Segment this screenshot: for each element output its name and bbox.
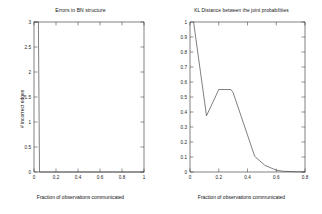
chart-panel-left: Errors in BN structure: [0, 0, 161, 214]
ytick-label-left-2: 1: [28, 120, 31, 125]
ytick-label-right-10: 1: [184, 20, 187, 25]
y-ticks-right: [190, 22, 305, 172]
ytick-label-right-9: 0.9: [181, 35, 188, 40]
xtick-label-left-5: 1: [143, 175, 146, 180]
xlabel-left: Fraction of observations communicated: [0, 194, 161, 200]
ytick-label-right-3: 0.3: [181, 125, 188, 130]
figure-canvas: Errors in BN structure: [0, 0, 322, 214]
ytick-label-right-1: 0.1: [181, 155, 188, 160]
ytick-label-right-4: 0.4: [181, 110, 188, 115]
ylabel-left: # incorrect edges: [19, 90, 25, 128]
ytick-label-right-5: 0.5: [181, 95, 188, 100]
chart-panel-right: KL Distance between the joint probabilit…: [161, 0, 322, 214]
ytick-label-left-4: 2: [28, 70, 31, 75]
ytick-label-right-6: 0.6: [181, 80, 188, 85]
xtick-label-right-0: 0: [189, 175, 192, 180]
ytick-label-left-5: 2.5: [25, 45, 32, 50]
y-ticks-left: [34, 22, 144, 172]
ytick-label-right-8: 0.8: [181, 50, 188, 55]
data-series-kl-distance: [194, 22, 305, 172]
xtick-label-left-3: 0.6: [97, 175, 104, 180]
data-series-incorrect-edges: [34, 22, 144, 172]
xtick-label-left-0: 0: [33, 175, 36, 180]
ytick-label-left-0: 0: [28, 170, 31, 175]
ytick-label-left-1: 0.5: [25, 145, 32, 150]
axis-frame-right: [190, 22, 305, 172]
xlabel-right: Fraction of observations communicated: [161, 194, 322, 200]
axis-frame-left: [34, 22, 144, 172]
xtick-label-left-2: 0.4: [75, 175, 82, 180]
ytick-label-left-6: 3: [28, 20, 31, 25]
xtick-label-left-1: 0.2: [53, 175, 60, 180]
xtick-label-right-1: 0.2: [216, 175, 223, 180]
ytick-label-left-3: 1.5: [25, 95, 32, 100]
ytick-label-right-2: 0.2: [181, 140, 188, 145]
x-ticks-left: [34, 22, 144, 172]
x-ticks-right: [190, 22, 305, 172]
ytick-label-right-0: 0: [184, 170, 187, 175]
xtick-label-left-4: 0.8: [119, 175, 126, 180]
xtick-label-right-3: 0.6: [273, 175, 280, 180]
ytick-label-right-7: 0.7: [181, 65, 188, 70]
xtick-label-right-4: 0.8: [302, 175, 309, 180]
plot-area-right: 0 0.1 0.2 0.3 0.4 0.5 0.6 0.7 0.8 0.9 1 …: [161, 0, 322, 214]
xtick-label-right-2: 0.4: [244, 175, 251, 180]
